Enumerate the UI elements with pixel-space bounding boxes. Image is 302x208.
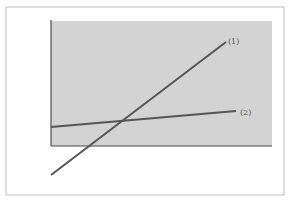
figure: (1) (2) (0, 0, 302, 208)
line-1-label: (1) (228, 37, 239, 46)
chart-svg: (1) (2) (0, 0, 302, 208)
line-2-label: (2) (240, 108, 251, 117)
